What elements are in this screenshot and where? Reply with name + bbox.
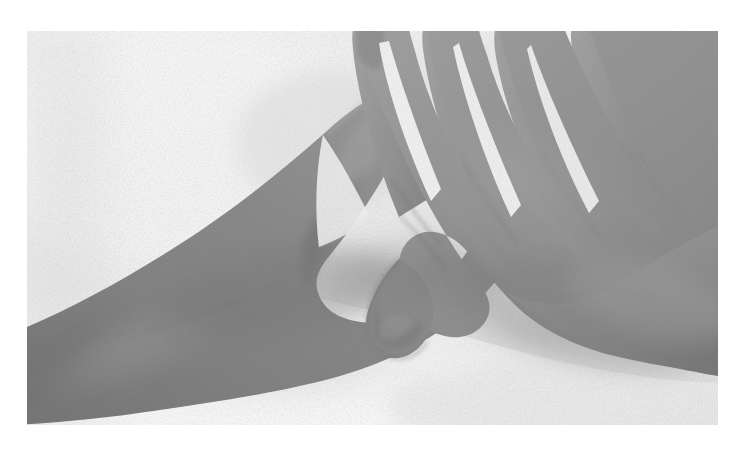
photograph-artwork	[27, 31, 718, 425]
photograph	[27, 31, 718, 425]
image-canvas: two hands resting on a white terrycloth …	[0, 0, 743, 455]
photo-tone	[27, 31, 718, 425]
